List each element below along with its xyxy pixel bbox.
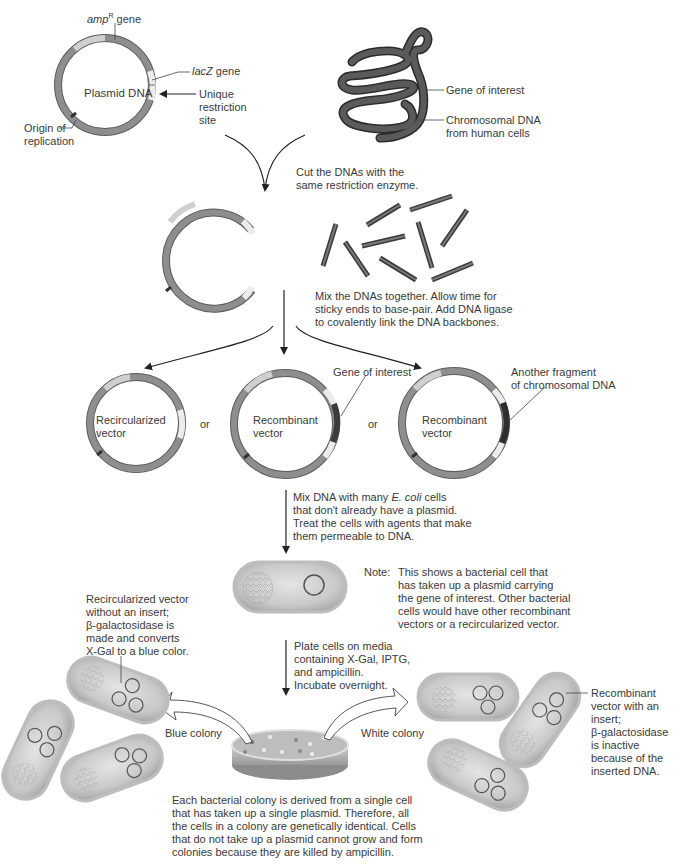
recombinant-vector-label-1: Recombinant vector	[253, 414, 318, 440]
footer-line: the cells in a colony are genetically id…	[172, 820, 423, 833]
desc-line: inserted DNA.	[591, 765, 668, 778]
chromosomal-dna	[342, 32, 428, 138]
blue-colony-label: Blue colony	[165, 727, 222, 740]
dna-fragments	[323, 196, 473, 280]
or-label-2: or	[368, 418, 378, 431]
desc-line: without an insert;	[86, 606, 189, 619]
note-line: cells would have other recombinant	[398, 605, 570, 618]
chromosomal-line: from human cells	[446, 127, 541, 140]
fragment-label-line: of chromosomal DNA	[511, 379, 616, 392]
gene-of-interest-label: Gene of interest	[446, 84, 524, 97]
instruction-line: them permeable to DNA.	[293, 530, 472, 543]
cut-instruction: Cut the DNAs with the same restriction e…	[296, 166, 418, 192]
origin-line: Origin of	[24, 122, 74, 135]
note-line: the gene of interest. Other bacterial	[398, 592, 570, 605]
instruction-line: Treat the cells with agents that make	[293, 517, 472, 530]
gene-of-interest-insert-label: Gene of interest	[333, 366, 411, 379]
plasmid-dna	[58, 38, 155, 132]
vector-label-line: vector	[253, 427, 318, 440]
plating-instruction: Plate cells on media containing X-Gal, I…	[294, 640, 410, 692]
origin-line: replication	[24, 135, 74, 148]
desc-line: insert;	[591, 713, 668, 726]
recircularized-vector-label: Recircularized vector	[96, 414, 166, 440]
lacz-italic: lacZ	[192, 65, 213, 77]
vector-label-line: Recombinant	[253, 414, 318, 427]
another-fragment-label: Another fragment of chromosomal DNA	[511, 366, 616, 392]
desc-line: Recircularized vector	[86, 593, 189, 606]
chromosomal-dna-label: Chromosomal DNA from human cells	[446, 114, 541, 140]
note-line: vectors or a recircularized vector.	[398, 618, 570, 631]
blue-colony-cells	[0, 651, 175, 808]
instruction-line: same restriction enzyme.	[296, 179, 418, 192]
instruction-line: to covalently link the DNA backbones.	[315, 316, 513, 329]
white-colony-label: White colony	[361, 727, 424, 740]
footer-line: that do not take up a plasmid cannot gro…	[172, 833, 423, 846]
note-block: Note: This shows a bacterial cell that h…	[364, 566, 570, 631]
mix-ligase-instruction: Mix the DNAs together. Allow time for st…	[315, 290, 513, 329]
amp-gene-segment	[75, 38, 105, 49]
desc-line: X-Gal to a blue color.	[86, 645, 189, 658]
note-line: has taken up a plasmid carrying	[398, 579, 570, 592]
instruction-line: and ampicillin.	[294, 666, 410, 679]
desc-line: because of the	[591, 752, 668, 765]
nucleoid	[243, 572, 273, 604]
footer-explanation: Each bacterial colony is derived from a …	[172, 794, 423, 859]
restriction-site-line: site	[199, 114, 247, 127]
vector-label-line: vector	[422, 427, 487, 440]
instruction-line: sticky ends to base-pair. Add DNA ligase	[315, 303, 513, 316]
plasmid-dna-label: Plasmid DNA	[84, 87, 152, 100]
desc-line: is inactive	[591, 739, 668, 752]
amp-rest: gene	[113, 13, 141, 25]
instruction-line: that don't already have a plasmid.	[293, 504, 472, 517]
vector-label-line: vector	[96, 427, 166, 440]
or-label-1: or	[200, 418, 210, 431]
cut-plasmid	[166, 204, 253, 309]
instruction-line: Plate cells on media	[294, 640, 410, 653]
restriction-site-line: Unique	[199, 88, 247, 101]
text-span: cells	[421, 491, 446, 503]
footer-line: Each bacterial colony is derived from a …	[172, 794, 423, 807]
amp-gene-label: ampR gene	[87, 9, 141, 26]
desc-line: made and converts	[86, 632, 189, 645]
vector-label-line: Recircularized	[96, 414, 166, 427]
text-span: Mix DNA with many	[293, 491, 391, 503]
white-colony-cells	[418, 664, 589, 818]
desc-line: Recombinant	[591, 687, 668, 700]
bacterial-cell	[234, 562, 346, 612]
desc-line: vector with an	[591, 700, 668, 713]
footer-line: colonies because they are killed by ampi…	[172, 846, 423, 859]
instruction-line: Incubate overnight.	[294, 679, 410, 692]
white-colony-description: Recombinant vector with an insert; β-gal…	[591, 687, 668, 778]
instruction-line: Cut the DNAs with the	[296, 166, 418, 179]
recombinant-vector-label-2: Recombinant vector	[422, 414, 487, 440]
desc-line: β-galactosidase	[591, 726, 668, 739]
instruction-line: containing X-Gal, IPTG,	[294, 653, 410, 666]
lacz-gene-label: lacZ gene	[192, 65, 240, 78]
vector-label-line: Recombinant	[422, 414, 487, 427]
note-line: This shows a bacterial cell that	[398, 566, 570, 579]
lacz-rest: gene	[213, 65, 241, 77]
footer-line: that has taken up a single plasmid. Ther…	[172, 807, 423, 820]
instruction-line: Mix DNA with many E. coli cells	[293, 491, 472, 504]
note-prefix: Note:	[364, 566, 398, 631]
ecoli-italic: E. coli	[391, 491, 421, 503]
chromosomal-line: Chromosomal DNA	[446, 114, 541, 127]
blue-colony-description: Recircularized vector without an insert;…	[86, 593, 189, 658]
desc-line: β-galactosidase is	[86, 619, 189, 632]
instruction-line: Mix the DNAs together. Allow time for	[315, 290, 513, 303]
restriction-site-line: restriction	[199, 101, 247, 114]
origin-of-replication-label: Origin of replication	[24, 122, 74, 148]
amp-italic: amp	[87, 13, 108, 25]
restriction-site-label: Unique restriction site	[199, 88, 247, 127]
transformation-instruction: Mix DNA with many E. coli cells that don…	[293, 491, 472, 543]
fragment-label-line: Another fragment	[511, 366, 616, 379]
